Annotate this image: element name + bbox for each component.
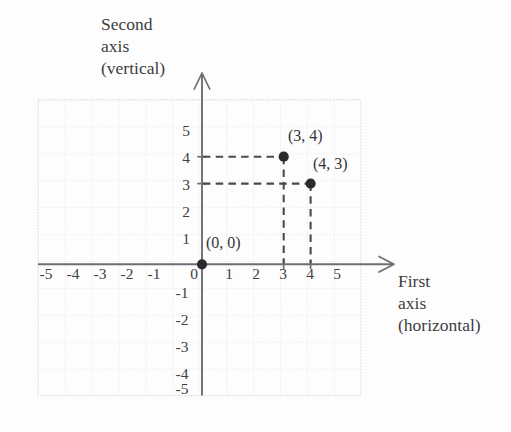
horizontal-axis-title-line3: (horizontal) xyxy=(398,315,481,336)
tick-label-x-neg-5: -5 xyxy=(33,265,59,283)
tick-label-x-neg-4: -4 xyxy=(60,265,86,283)
tick-label-y-4: 4 xyxy=(176,149,196,167)
tick-label-y-neg-2: -2 xyxy=(168,311,196,329)
tick-label-y-2: 2 xyxy=(176,203,196,221)
tick-label-x-neg-2: -2 xyxy=(114,265,140,283)
vertical-axis-title-line1: Second xyxy=(101,14,153,35)
tick-label-x-neg-1: -1 xyxy=(141,265,167,283)
vertical-axis-title-line3: (vertical) xyxy=(101,58,165,79)
point-label-origin: (0, 0) xyxy=(206,234,241,253)
tick-label-x-3: 3 xyxy=(270,265,296,283)
plotted-point-3-4 xyxy=(279,152,289,162)
tick-label-x-1: 1 xyxy=(216,265,242,283)
point-label-3-4: (3, 4) xyxy=(288,127,323,146)
tick-label-y-neg-5: -5 xyxy=(168,380,196,398)
tick-label-y-neg-3: -3 xyxy=(168,338,196,356)
tick-label-origin: 0 xyxy=(186,265,202,283)
tick-label-x-4: 4 xyxy=(297,265,323,283)
tick-label-y-3: 3 xyxy=(176,176,196,194)
tick-label-x-5: 5 xyxy=(324,265,350,283)
tick-label-x-2: 2 xyxy=(243,265,269,283)
coordinate-plane-canvas xyxy=(0,0,511,432)
plotted-point-4-3 xyxy=(306,179,316,189)
horizontal-axis-title-line2: axis xyxy=(398,293,426,314)
vertical-axis-title-line2: axis xyxy=(101,36,129,57)
tick-label-x-neg-3: -3 xyxy=(87,265,113,283)
point-label-4-3: (4, 3) xyxy=(313,155,348,174)
tick-label-y-5: 5 xyxy=(176,122,196,140)
tick-label-y-1: 1 xyxy=(176,230,196,248)
coordinate-plane-figure: Second axis (vertical) First axis (horiz… xyxy=(0,0,511,432)
horizontal-axis-title-line1: First xyxy=(398,271,430,292)
tick-label-y-neg-1: -1 xyxy=(168,284,196,302)
